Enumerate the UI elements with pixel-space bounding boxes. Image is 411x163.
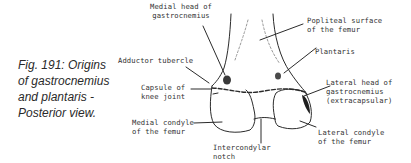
label-capsule: Capsule of knee joint bbox=[141, 83, 185, 101]
label-line: of the femur bbox=[318, 137, 384, 146]
label-lateral-head: Lateral head of gastrocnemius (extracaps… bbox=[326, 78, 392, 105]
leader-lateral-condyle bbox=[300, 121, 316, 127]
capsule-line bbox=[212, 88, 305, 92]
label-adductor-tubercle: Adductor tubercle bbox=[118, 56, 193, 65]
label-line: Capsule of bbox=[141, 83, 185, 92]
label-line: Medial head of bbox=[150, 2, 212, 11]
label-line: knee joint bbox=[141, 92, 185, 101]
leader-medial-condyle bbox=[194, 122, 222, 123]
label-line: Intercondylar bbox=[213, 143, 271, 152]
label-medial-condyle: Medial condyle of the femur bbox=[132, 118, 194, 136]
label-line: Medial condyle bbox=[132, 118, 194, 127]
leader-adductor-tubercle bbox=[186, 67, 209, 83]
label-popliteal: Popliteal surface of the femur bbox=[307, 16, 382, 34]
label-line: Lateral condyle bbox=[318, 128, 384, 137]
intercondylar-notch-outline bbox=[254, 118, 275, 120]
capsule-tick bbox=[213, 93, 218, 94]
medial-supracondylar-line bbox=[235, 20, 248, 60]
label-line: Popliteal surface bbox=[307, 16, 382, 25]
label-line: Adductor tubercle bbox=[118, 56, 193, 65]
label-medial-head: Medial head of gastrocnemius bbox=[150, 2, 212, 20]
label-lateral-condyle: Lateral condyle of the femur bbox=[318, 128, 384, 146]
label-line: notch bbox=[213, 152, 271, 161]
label-line: Plantaris bbox=[315, 47, 355, 56]
medial-shaft-border bbox=[212, 14, 231, 86]
lateral-shaft-border bbox=[273, 14, 307, 94]
label-line: of the femur bbox=[307, 25, 382, 34]
label-line: Lateral head of bbox=[326, 78, 392, 87]
label-plantaris: Plantaris bbox=[315, 47, 355, 56]
leader-medial-head bbox=[203, 26, 225, 75]
medial-head-origin bbox=[223, 76, 231, 85]
lateral-head-origin bbox=[302, 95, 310, 114]
plantaris-origin bbox=[275, 73, 281, 80]
label-line: of the femur bbox=[132, 127, 194, 136]
leader-plantaris bbox=[284, 48, 316, 73]
label-intercondylar: Intercondylar notch bbox=[213, 143, 271, 161]
leader-popliteal bbox=[260, 24, 303, 40]
label-line: (extracapsular) bbox=[326, 96, 392, 105]
label-line: gastrocnemius bbox=[326, 87, 392, 96]
label-line: gastrocnemius bbox=[150, 11, 212, 20]
